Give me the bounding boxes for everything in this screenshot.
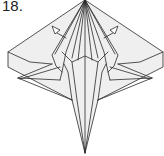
origami-diagram — [0, 0, 164, 156]
paper-body — [8, 0, 163, 153]
